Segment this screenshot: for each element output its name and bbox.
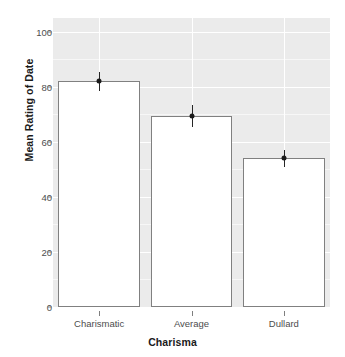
- y-tick-label: 80: [12, 81, 52, 92]
- bar-charismatic: [58, 81, 140, 307]
- x-tick-label: Charismatic: [74, 318, 124, 329]
- y-tick-mark: [47, 196, 52, 197]
- plot-panel: [53, 18, 330, 307]
- bar-dullard: [243, 158, 325, 307]
- x-axis: CharismaticAverageDullard: [0, 307, 345, 357]
- y-tick-label: 60: [12, 136, 52, 147]
- data-point-dullard: [281, 156, 286, 161]
- bar-chart: Mean Rating of Date 100806040200 Charism…: [0, 0, 345, 357]
- x-tick-label: Dullard: [269, 318, 299, 329]
- x-axis-title: Charisma: [0, 336, 345, 348]
- data-point-average: [189, 113, 194, 118]
- y-tick-mark: [47, 31, 52, 32]
- bar-average: [151, 116, 233, 307]
- y-tick-label: 20: [12, 246, 52, 257]
- y-axis: 100806040200: [0, 0, 52, 357]
- y-tick-label: 40: [12, 191, 52, 202]
- data-point-charismatic: [97, 79, 102, 84]
- y-tick-mark: [47, 86, 52, 87]
- y-tick-mark: [47, 141, 52, 142]
- y-tick-mark: [47, 251, 52, 252]
- x-tick-mark: [284, 311, 285, 316]
- y-tick-label: 100: [12, 26, 52, 37]
- x-tick-mark: [99, 311, 100, 316]
- x-tick-mark: [192, 311, 193, 316]
- x-tick-label: Average: [174, 318, 209, 329]
